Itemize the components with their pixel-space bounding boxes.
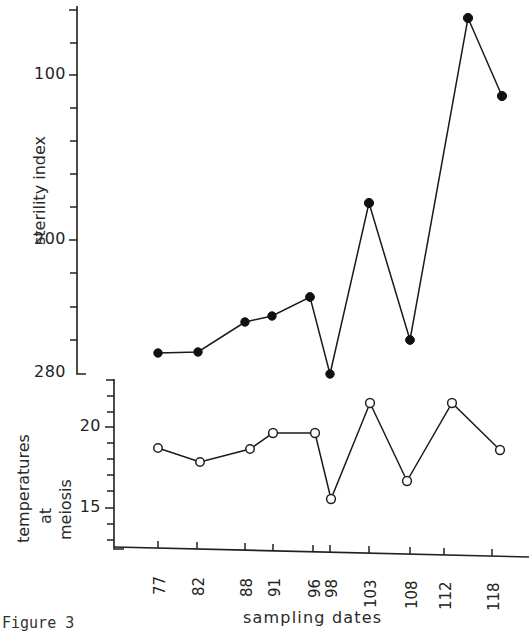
bottom-y-axis-ticks <box>105 380 114 540</box>
temperature-markers <box>154 399 505 504</box>
xtick-label-98: 98 <box>323 579 341 598</box>
sterility-index-line <box>158 18 502 374</box>
xtick-label-77: 77 <box>151 576 169 595</box>
x-axis-line <box>114 547 529 557</box>
bottom-y-axis-line <box>114 379 124 549</box>
bottom-yaxis-title-line-3: meiosis <box>56 479 75 540</box>
top-panel-axis <box>69 6 86 374</box>
xtick-label-112: 112 <box>437 581 455 610</box>
bottom-series <box>154 399 505 504</box>
bottom-panel-axis <box>105 379 529 557</box>
top-y-axis-line <box>77 6 86 374</box>
bottom-yaxis-title-line-1: temperatures <box>14 434 33 543</box>
xtick-label-96: 96 <box>306 579 324 598</box>
figure-caption: Figure 3 <box>2 614 74 632</box>
top-ytick-label-100: 100 <box>0 64 66 83</box>
xtick-label-88: 88 <box>238 578 256 597</box>
xaxis-title: sampling dates <box>243 608 382 627</box>
top-ytick-label-280: 280 <box>0 362 66 381</box>
xtick-label-91: 91 <box>266 578 284 597</box>
bottom-yaxis-title-line-2: at <box>36 508 55 524</box>
xtick-label-103: 103 <box>362 579 380 608</box>
temperature-line <box>158 403 500 499</box>
sterility-index-markers <box>154 13 507 378</box>
top-series <box>154 13 507 378</box>
xtick-label-82: 82 <box>190 577 208 596</box>
bottom-ytick-label-20: 20 <box>63 416 101 435</box>
xtick-label-118: 118 <box>485 582 503 611</box>
xtick-label-108: 108 <box>403 580 421 609</box>
top-y-axis-ticks <box>69 10 77 340</box>
top-yaxis-title: sterility index <box>30 136 49 245</box>
